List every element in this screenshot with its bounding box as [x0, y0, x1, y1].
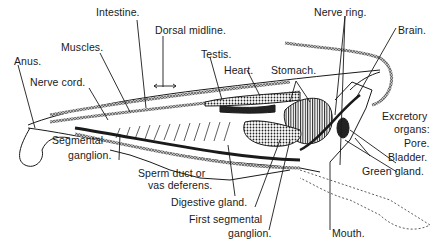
label-excretory-organs: Excretory [382, 110, 427, 122]
label-stomach: Stomach. [271, 64, 316, 76]
label-digestive-gland: Digestive gland. [171, 196, 247, 208]
label-muscles: Muscles. [61, 41, 103, 53]
heart-shape [205, 92, 300, 106]
label-anus: Anus. [14, 55, 41, 67]
green-gland-shape [337, 118, 349, 138]
label-heart: Heart. [224, 64, 253, 76]
crayfish-anatomy-drawing [0, 0, 442, 246]
testis-shape [220, 105, 275, 113]
label-sperm-duct-2: vas deferens. [148, 179, 212, 191]
label-pore: Pore. [404, 137, 430, 149]
label-segmental-ganglion-2: ganglion. [68, 149, 112, 161]
label-testis: Testis. [201, 48, 231, 60]
label-nerve-ring: Nerve ring. [314, 6, 366, 18]
label-first-segmental-ganglion-2: ganglion. [228, 227, 272, 239]
label-dorsal-midline: Dorsal midline. [155, 24, 226, 36]
label-mouth: Mouth. [332, 227, 365, 239]
label-bladder: Bladder. [388, 151, 427, 163]
label-segmental-ganglion: Segmental [52, 134, 103, 146]
label-green-gland: Green gland. [362, 165, 424, 177]
label-nerve-cord: Nerve cord. [30, 76, 85, 88]
label-sperm-duct: Sperm duct or [138, 167, 205, 179]
label-first-segmental-ganglion: First segmental [189, 213, 262, 225]
label-intestine: Intestine. [96, 6, 140, 18]
label-excretory-organs-2: organs: [394, 123, 430, 135]
claw-outline [300, 170, 430, 229]
label-brain: Brain. [398, 24, 426, 36]
